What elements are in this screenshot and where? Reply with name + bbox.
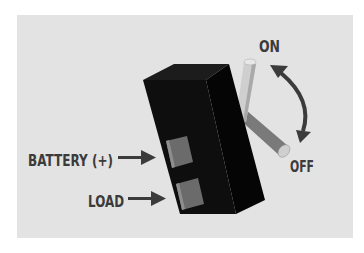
load-arrow <box>128 191 166 206</box>
label-on: ON <box>259 38 280 56</box>
arrowhead-off <box>296 130 311 143</box>
battery-arrow <box>118 150 156 165</box>
lever-on-rod-end <box>244 59 256 65</box>
toggle-switch-diagram: ON OFF BATTERY (+) LOAD <box>0 0 364 253</box>
label-battery: BATTERY (+) <box>28 152 113 170</box>
toggle-motion-arrow <box>270 65 311 143</box>
label-load: LOAD <box>88 193 124 211</box>
label-off: OFF <box>290 158 314 176</box>
